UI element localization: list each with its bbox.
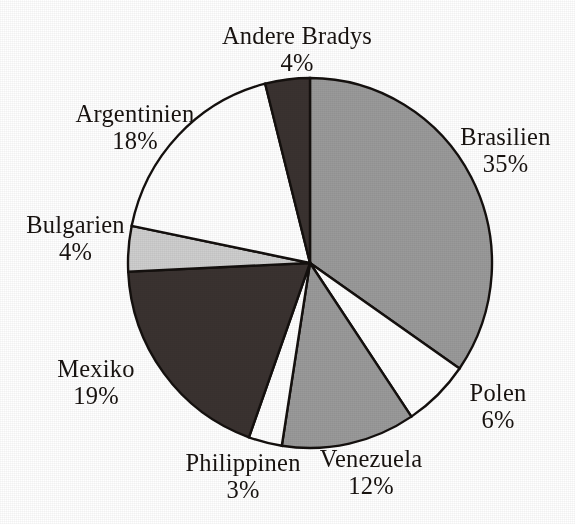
pie-label-andere-bradys-value: 4% bbox=[191, 49, 403, 76]
pie-label-polen-value: 6% bbox=[440, 406, 556, 433]
pie-label-argentinien-value: 18% bbox=[45, 127, 225, 154]
pie-label-philippinen-value: 3% bbox=[168, 476, 318, 503]
pie-label-mexiko: Mexiko 19% bbox=[27, 355, 165, 410]
pie-label-polen-name: Polen bbox=[440, 379, 556, 406]
pie-label-andere-bradys-name: Andere Bradys bbox=[191, 22, 403, 49]
pie-label-mexiko-value: 19% bbox=[27, 382, 165, 409]
pie-label-argentinien-name: Argentinien bbox=[45, 100, 225, 127]
pie-label-polen: Polen 6% bbox=[440, 379, 556, 434]
pie-label-bulgarien-value: 4% bbox=[2, 238, 149, 265]
pie-chart: Andere Bradys 4% Brasilien 35% Polen 6% … bbox=[0, 0, 575, 524]
pie-label-brasilien-name: Brasilien bbox=[436, 123, 575, 150]
pie-label-brasilien-value: 35% bbox=[436, 150, 575, 177]
pie-label-brasilien: Brasilien 35% bbox=[436, 123, 575, 178]
pie-label-argentinien: Argentinien 18% bbox=[45, 100, 225, 155]
pie-label-philippinen: Philippinen 3% bbox=[168, 449, 318, 504]
pie-label-bulgarien-name: Bulgarien bbox=[2, 211, 149, 238]
pie-label-bulgarien: Bulgarien 4% bbox=[2, 211, 149, 266]
pie-label-venezuela-name: Venezuela bbox=[300, 445, 442, 472]
pie-label-mexiko-name: Mexiko bbox=[27, 355, 165, 382]
pie-label-andere-bradys: Andere Bradys 4% bbox=[191, 22, 403, 77]
pie-label-philippinen-name: Philippinen bbox=[168, 449, 318, 476]
pie-label-venezuela: Venezuela 12% bbox=[300, 445, 442, 500]
pie-label-venezuela-value: 12% bbox=[300, 472, 442, 499]
